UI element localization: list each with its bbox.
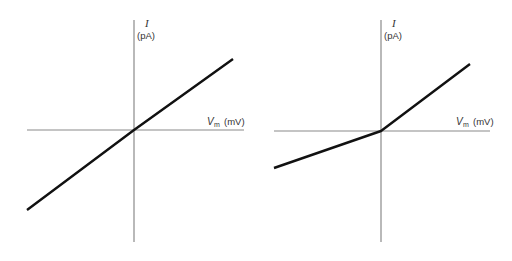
iv-curves-figure: I (pA) V m (mV) I (pA) V m (mV) xyxy=(0,0,512,261)
left-x-axis-subscript: m xyxy=(214,121,220,128)
left-x-axis-unit: (mV) xyxy=(224,116,245,127)
left-iv-line xyxy=(27,59,233,210)
left-y-axis-symbol: I xyxy=(144,17,150,29)
right-y-axis-symbol: I xyxy=(391,17,397,29)
right-x-axis-subscript: m xyxy=(463,121,469,128)
right-iv-line xyxy=(274,64,470,168)
right-y-axis-unit: (pA) xyxy=(384,30,402,41)
left-x-axis-label: V m (mV) xyxy=(207,116,245,128)
right-x-axis-label: V m (mV) xyxy=(456,116,494,128)
left-panel-linear-iv: I (pA) V m (mV) xyxy=(27,17,245,242)
left-y-axis-unit: (pA) xyxy=(137,30,155,41)
right-panel-rectifying-iv: I (pA) V m (mV) xyxy=(274,17,494,242)
right-x-axis-unit: (mV) xyxy=(473,116,494,127)
